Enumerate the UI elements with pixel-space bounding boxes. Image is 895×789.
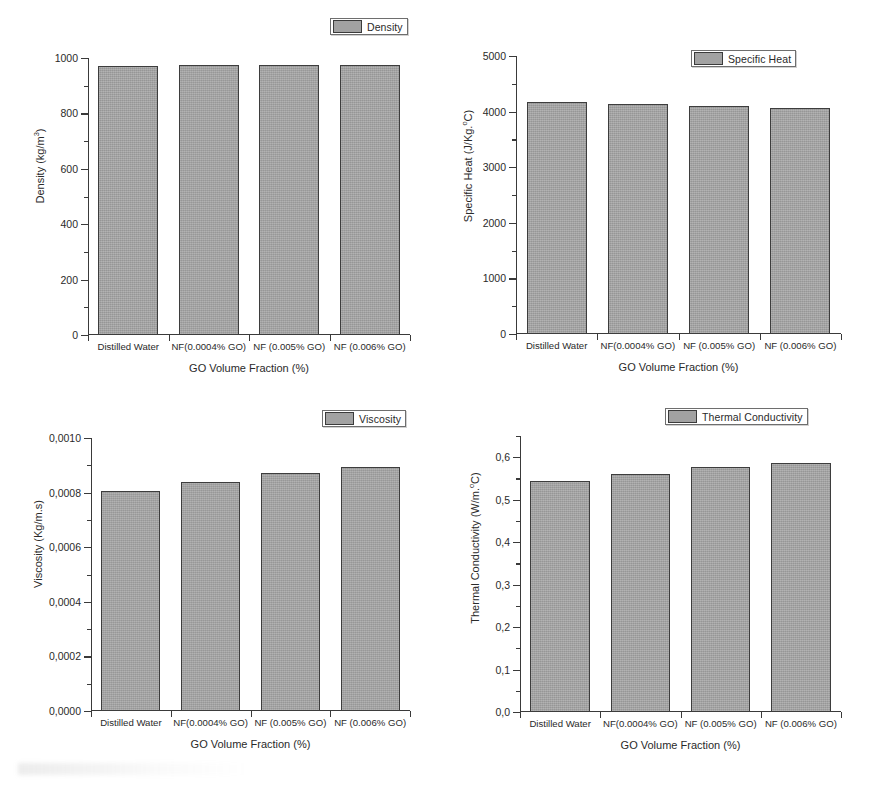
x-category-label: NF(0.0004% GO) [600, 718, 680, 729]
bar-cell [330, 58, 411, 335]
legend-label: Thermal Conductivity [702, 411, 803, 423]
bar-cell [520, 436, 600, 712]
y-tick-label: 0,6 [495, 451, 510, 463]
superscript: o [460, 121, 469, 125]
y-tick-major [513, 457, 520, 458]
y-tick-label: 0,0 [495, 706, 510, 718]
bar[interactable] [530, 481, 589, 712]
bar[interactable] [340, 65, 400, 335]
x-category-label: NF (0.006% GO) [330, 341, 411, 352]
bar[interactable] [611, 474, 670, 712]
x-category-label: Distilled Water [520, 718, 600, 729]
x-category-label: NF (0.006% GO) [330, 717, 410, 728]
y-tick-label: 2000 [483, 217, 506, 229]
y-tick-label: 0 [72, 329, 78, 341]
x-category-label: NF(0.0004% GO) [171, 717, 251, 728]
bar[interactable] [771, 463, 830, 712]
x-category-label: NF(0.0004% GO) [169, 341, 250, 352]
y-tick-major [84, 547, 91, 548]
y-tick-minor [512, 306, 516, 307]
x-category-label: Distilled Water [516, 340, 597, 351]
y-tick-label: 0,0004 [49, 596, 81, 608]
y-tick-major [81, 224, 88, 225]
y-tick-label: 1000 [483, 272, 506, 284]
bar-series-thermal-conductivity [520, 436, 841, 712]
bar[interactable] [101, 491, 160, 711]
chart-panel-viscosity: Viscosity 0,00000,00020,00040,00060,0008… [0, 394, 447, 789]
bar-cell [760, 56, 841, 334]
y-tick-minor [516, 478, 520, 479]
y-tick-minor [516, 563, 520, 564]
bar[interactable] [261, 473, 320, 711]
legend-label: Viscosity [359, 413, 401, 425]
bar[interactable] [691, 467, 750, 712]
bar-cell [679, 56, 760, 334]
bar-series-viscosity [91, 438, 410, 711]
y-tick-major [81, 169, 88, 170]
y-axis-title-viscosity: Viscosity (Kg/m.s) [32, 444, 44, 644]
bar-cell [516, 56, 597, 334]
bar-cell [169, 58, 250, 335]
y-tick-label: 4000 [483, 106, 506, 118]
superscript: 3 [32, 132, 41, 136]
legend-viscosity: Viscosity [322, 410, 406, 427]
y-tick-minor [512, 195, 516, 196]
legend-density: Density [330, 18, 408, 35]
y-tick-major [81, 58, 88, 59]
bar-cell [597, 56, 678, 334]
y-tick-major [509, 167, 516, 168]
y-tick-minor [84, 307, 88, 308]
bar[interactable] [770, 108, 830, 334]
y-tick-minor [87, 465, 91, 466]
y-tick-minor [516, 521, 520, 522]
legend-label: Density [367, 21, 403, 33]
bar-cell [681, 436, 761, 712]
x-category-label: Distilled Water [91, 717, 171, 728]
y-tick-minor [87, 684, 91, 685]
y-tick-label: 600 [60, 163, 78, 175]
plot-area-density: 02004006008001000 [88, 58, 410, 335]
y-tick-major [81, 280, 88, 281]
y-tick-label: 0,1 [495, 664, 510, 676]
y-tick-major [84, 602, 91, 603]
chart-panel-thermal-conductivity: Thermal Conductivity 0,00,10,20,30,40,50… [447, 394, 895, 789]
plot-area-viscosity: 0,00000,00020,00040,00060,00080,0010 [91, 438, 410, 711]
y-tick-minor [87, 629, 91, 630]
y-tick-minor [84, 197, 88, 198]
bar-cell [330, 438, 410, 711]
bar-cell [171, 438, 251, 711]
y-tick-label: 1000 [55, 52, 78, 64]
x-axis-title-specific-heat: GO Volume Fraction (%) [516, 361, 841, 373]
bar[interactable] [341, 467, 400, 711]
y-tick-label: 800 [60, 107, 78, 119]
bar[interactable] [689, 106, 749, 334]
y-axis-title-thermal-conductivity: Thermal Conductivity (W/m.oC) [469, 438, 481, 658]
bar[interactable] [179, 65, 239, 335]
bar[interactable] [181, 482, 240, 711]
bar[interactable] [98, 66, 158, 335]
y-tick-major [509, 112, 516, 113]
y-tick-major [513, 712, 520, 713]
y-tick-major [84, 438, 91, 439]
y-tick-label: 0,0010 [49, 432, 81, 444]
y-tick-minor [516, 606, 520, 607]
chart-panel-specific-heat: Specific Heat 010002000300040005000 Spec… [447, 0, 895, 394]
y-tick-major [84, 711, 91, 712]
bar-cell [251, 438, 331, 711]
y-tick-label: 0,0000 [49, 705, 81, 717]
y-tick-minor [512, 84, 516, 85]
x-tick [410, 335, 411, 341]
bar[interactable] [527, 102, 587, 334]
x-category-label: NF (0.006% GO) [761, 718, 841, 729]
y-tick-major [81, 335, 88, 336]
plot-area-thermal-conductivity: 0,00,10,20,30,40,50,6 [520, 436, 841, 712]
bar-series-specific-heat [516, 56, 841, 334]
x-tick-labels-specific-heat: Distilled WaterNF(0.0004% GO)NF (0.005% … [516, 340, 841, 351]
x-category-label: NF(0.0004% GO) [597, 340, 678, 351]
y-tick-minor [516, 691, 520, 692]
y-tick-label: 0,0006 [49, 541, 81, 553]
y-tick-major [513, 542, 520, 543]
bar[interactable] [259, 65, 319, 335]
x-category-label: NF (0.005% GO) [249, 341, 330, 352]
bar[interactable] [608, 104, 668, 334]
